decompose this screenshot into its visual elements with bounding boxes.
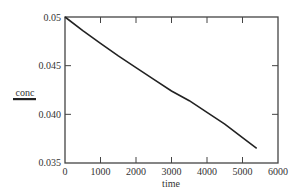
- x-tick-label: 0: [63, 166, 68, 177]
- series-line-conc: [65, 17, 257, 148]
- y-tick-label: 0.045: [39, 60, 62, 71]
- x-axis-title: time: [162, 178, 180, 189]
- x-tick-label: 4000: [197, 166, 217, 177]
- y-axis-title: conc: [16, 87, 35, 98]
- chart: 01000200030004000500060000.0350.0400.045…: [0, 0, 303, 192]
- y-tick-label: 0.035: [39, 157, 62, 168]
- tick-labels: 01000200030004000500060000.0350.0400.045…: [39, 12, 289, 178]
- y-tick-label: 0.040: [39, 109, 62, 120]
- x-tick-label: 3000: [162, 166, 182, 177]
- x-tick-label: 6000: [268, 166, 288, 177]
- x-tick-label: 5000: [233, 166, 253, 177]
- x-tick-label: 2000: [126, 166, 146, 177]
- y-axis-title-underline: [13, 98, 36, 100]
- x-tick-label: 1000: [91, 166, 111, 177]
- y-tick-label: 0.05: [44, 12, 62, 23]
